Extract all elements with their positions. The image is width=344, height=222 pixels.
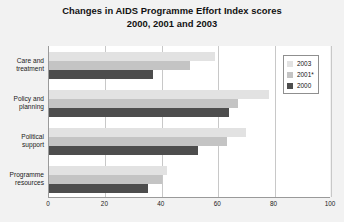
legend-item[interactable]: 2003 — [287, 59, 314, 68]
x-axis-tick-label: 40 — [157, 200, 164, 207]
bar-group — [49, 128, 331, 155]
bar — [49, 137, 227, 146]
category-label-line: resources — [0, 179, 44, 187]
x-axis-tick-label: 80 — [270, 200, 277, 207]
x-axis-tick-label: 0 — [46, 200, 50, 207]
legend-item[interactable]: 2000 — [287, 81, 314, 90]
category-label-line: Care and — [0, 57, 44, 65]
category-label-line: Policy and — [0, 95, 44, 103]
legend-label: 2003 — [297, 60, 311, 67]
bar — [49, 61, 190, 70]
bar — [49, 166, 167, 175]
category-label-line: treatment — [0, 65, 44, 73]
bar — [49, 108, 229, 117]
bar — [49, 70, 153, 79]
category-label: Politicalsupport — [0, 133, 44, 149]
chart-container: Changes in AIDS Programme Effort Index s… — [0, 0, 344, 222]
bar — [49, 184, 148, 193]
x-axis-tick-label: 100 — [325, 200, 336, 207]
legend-swatch — [287, 61, 293, 67]
category-label-line: planning — [0, 103, 44, 111]
legend-swatch — [287, 83, 293, 89]
gridline — [331, 46, 332, 197]
bar — [49, 52, 215, 61]
category-label-line: Programme — [0, 171, 44, 179]
legend-swatch — [287, 72, 293, 78]
category-label: Policy andplanning — [0, 95, 44, 111]
category-label: Programmeresources — [0, 171, 44, 187]
x-axis-tick-label: 20 — [101, 200, 108, 207]
chart-title: Changes in AIDS Programme Effort Index s… — [0, 5, 344, 30]
legend-label: 2001* — [297, 71, 314, 78]
category-label-line: Political — [0, 133, 44, 141]
bar-group — [49, 166, 331, 193]
chart-title-line-2: 2000, 2001 and 2003 — [0, 18, 344, 31]
bar — [49, 90, 269, 99]
bar — [49, 146, 198, 155]
bar — [49, 175, 162, 184]
category-axis-labels: Care andtreatmentPolicy andplanningPolit… — [0, 46, 46, 198]
legend-label: 2000 — [297, 82, 311, 89]
x-axis-tick-label: 60 — [214, 200, 221, 207]
bar — [49, 128, 246, 137]
category-label: Care andtreatment — [0, 57, 44, 73]
legend-item[interactable]: 2001* — [287, 70, 314, 79]
category-label-line: support — [0, 141, 44, 149]
x-axis-tick-labels: 020406080100 — [48, 200, 330, 214]
chart-legend: 20032001*2000 — [283, 55, 319, 94]
bar — [49, 99, 238, 108]
chart-title-line-1: Changes in AIDS Programme Effort Index s… — [0, 5, 344, 18]
